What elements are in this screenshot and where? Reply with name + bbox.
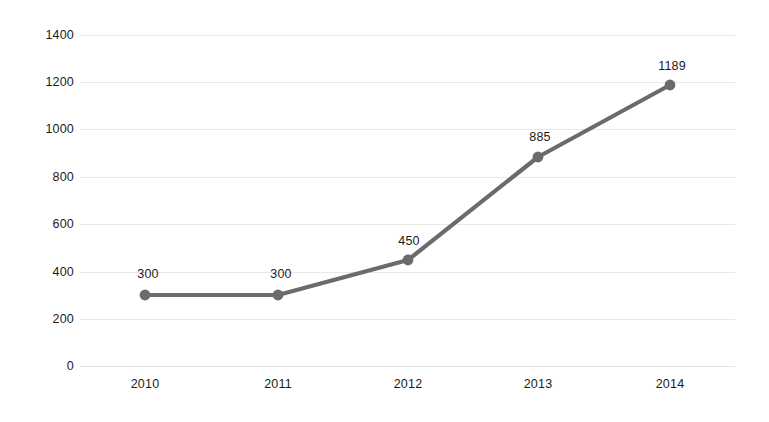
xtick-label-2011: 2011 — [238, 377, 318, 391]
data-point-2011 — [273, 290, 284, 301]
data-label-2014: 1189 — [637, 59, 707, 73]
data-point-2013 — [533, 152, 544, 163]
data-label-2010: 300 — [113, 267, 183, 281]
data-label-2011: 300 — [246, 267, 316, 281]
data-label-2013: 885 — [505, 130, 575, 144]
xtick-label-2013: 2013 — [498, 377, 578, 391]
data-point-2014 — [665, 80, 676, 91]
plot-area: 1400 1200 1000 800 600 400 200 0 — [0, 0, 769, 422]
data-point-2010 — [140, 290, 151, 301]
xtick-label-2010: 2010 — [105, 377, 185, 391]
xtick-label-2014: 2014 — [630, 377, 710, 391]
xtick-label-2012: 2012 — [368, 377, 448, 391]
line-chart: 1400 1200 1000 800 600 400 200 0 — [0, 0, 769, 422]
data-label-2012: 450 — [374, 234, 444, 248]
data-point-2012 — [403, 255, 414, 266]
